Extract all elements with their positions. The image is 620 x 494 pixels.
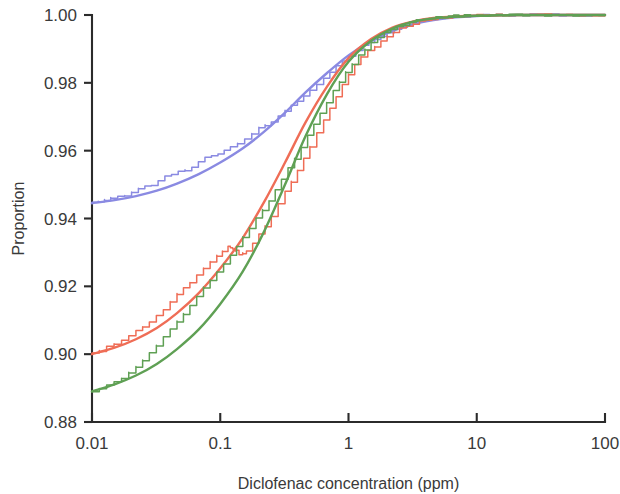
x-axis-title: Diclofenac concentration (ppm): [238, 475, 459, 492]
y-tick-label: 1.00: [44, 6, 77, 25]
x-tick-label: 0.1: [208, 434, 232, 453]
y-tick-label: 0.92: [44, 277, 77, 296]
series-line-blue-distribution-fit: [92, 15, 605, 203]
x-tick-label: 100: [591, 434, 619, 453]
x-tick-label: 10: [467, 434, 486, 453]
series-line-red-distribution-fit: [92, 15, 605, 354]
y-axis-title: Proportion: [10, 182, 27, 256]
y-tick-label: 0.96: [44, 142, 77, 161]
x-tick-label: 1: [344, 434, 353, 453]
series-line-green-distribution-empirical: [92, 14, 605, 392]
chart-container: 1.000.980.960.940.920.900.880.010.111010…: [0, 0, 620, 494]
axis-labels-group: 1.000.980.960.940.920.900.880.010.111010…: [10, 6, 619, 492]
y-tick-label: 0.98: [44, 74, 77, 93]
series-line-blue-distribution-empirical: [92, 14, 605, 202]
x-tick-label: 0.01: [75, 434, 108, 453]
data-series-group: [92, 14, 605, 392]
y-tick-label: 0.88: [44, 413, 77, 432]
series-line-red-distribution-empirical: [92, 14, 605, 353]
chart-plot-area: 1.000.980.960.940.920.900.880.010.111010…: [0, 0, 620, 494]
series-line-green-distribution-fit: [92, 15, 605, 391]
y-tick-label: 0.90: [44, 345, 77, 364]
y-tick-label: 0.94: [44, 210, 77, 229]
